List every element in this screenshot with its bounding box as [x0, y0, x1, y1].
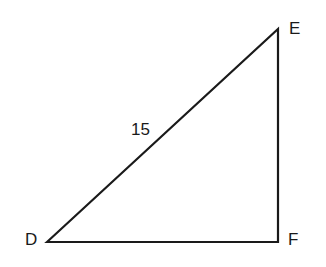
triangle-def [47, 29, 278, 242]
triangle-diagram: E D F 15 [0, 0, 326, 267]
vertex-label-f: F [288, 230, 298, 249]
vertex-label-d: D [25, 230, 37, 249]
side-label-de: 15 [131, 120, 150, 139]
vertex-label-e: E [289, 19, 300, 38]
